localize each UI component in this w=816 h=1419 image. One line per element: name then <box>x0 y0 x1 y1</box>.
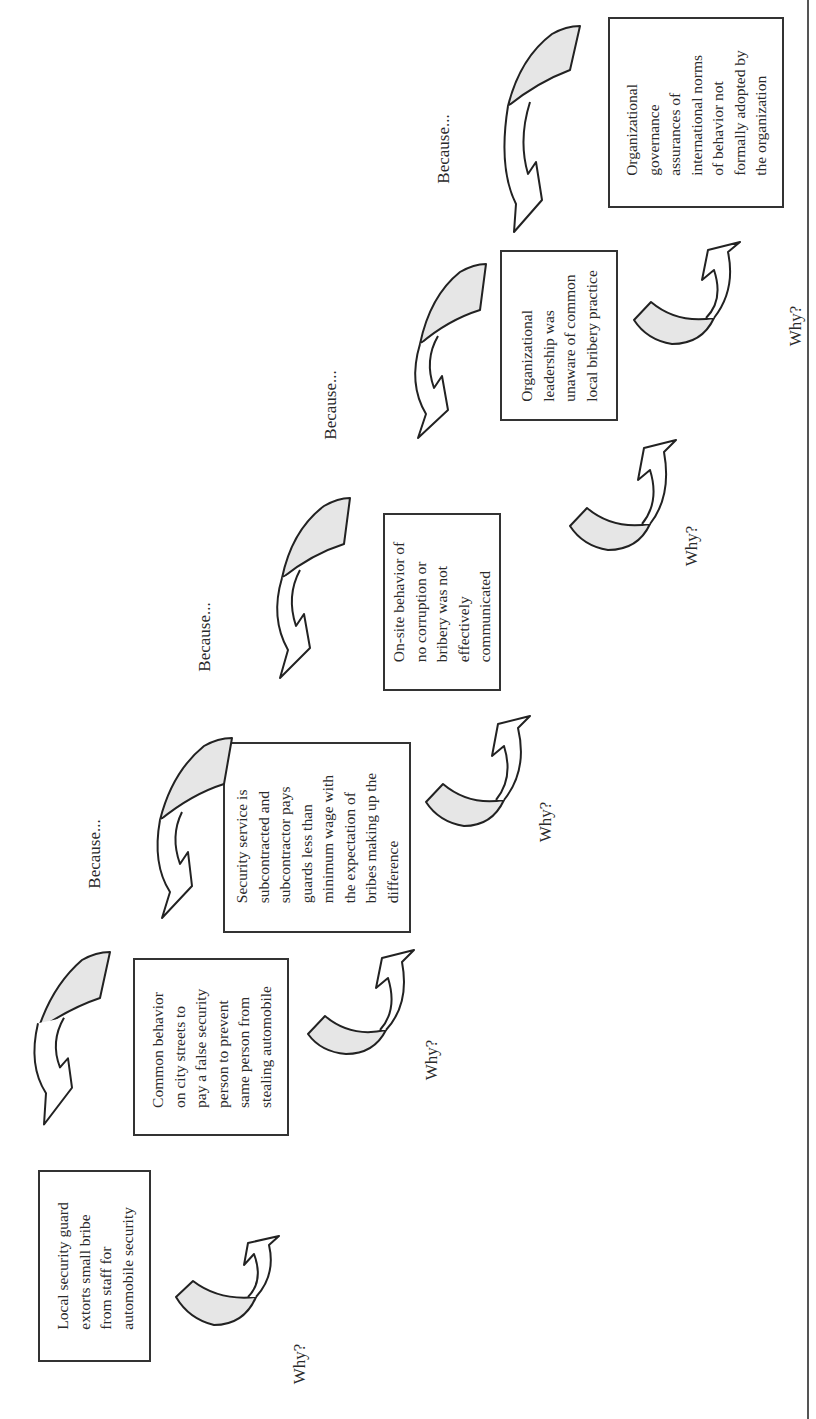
root-cause-box: Organizational governance assurances of … <box>608 17 784 208</box>
why1-text: Common behavior on city streets to pay a… <box>147 986 276 1108</box>
because-label-4: Because... <box>434 114 454 183</box>
why2-box: Security service is subcontracted and su… <box>223 742 411 933</box>
why-arrow-icon-3 <box>424 698 534 808</box>
why-arrow-icon-2 <box>306 944 416 1054</box>
why3-text: On-site behavior of no corruption or bri… <box>388 542 496 663</box>
why-label-3: Why? <box>536 802 556 843</box>
why2-text: Security service is subcontracted and su… <box>231 772 403 902</box>
why3-box: On-site behavior of no corruption or bri… <box>383 513 501 691</box>
because-arrow-icon-3 <box>266 488 356 668</box>
because-arrow-icon-1 <box>26 946 116 1126</box>
why-arrow-icon-4 <box>568 426 678 536</box>
because-arrow-icon-2 <box>148 728 238 908</box>
because-label-3: Because... <box>321 370 341 439</box>
why-label-2: Why? <box>422 1040 442 1081</box>
problem-box: Local security guard extorts small bribe… <box>38 1170 151 1362</box>
why-arrow-icon-1 <box>174 1215 284 1325</box>
because-arrow-icon-4 <box>402 258 492 438</box>
because-label-2: Because... <box>195 602 215 671</box>
why4-text: Organizational leadership was unaware of… <box>516 270 602 402</box>
because-arrow-icon-5 <box>500 22 590 232</box>
why1-box: Common behavior on city streets to pay a… <box>133 958 289 1136</box>
why-label-4: Why? <box>682 526 702 567</box>
root-cause-text: Organizational governance assurances of … <box>621 50 772 176</box>
because-label-1: Because... <box>85 819 105 888</box>
why4-box: Organizational leadership was unaware of… <box>500 250 618 421</box>
why-label-1: Why? <box>290 1344 310 1385</box>
problem-text: Local security guard extorts small bribe… <box>52 1202 138 1329</box>
why-arrow-icon-5 <box>632 240 742 350</box>
why-label-5: Why? <box>786 306 806 347</box>
page-edge-rule <box>807 0 809 1419</box>
